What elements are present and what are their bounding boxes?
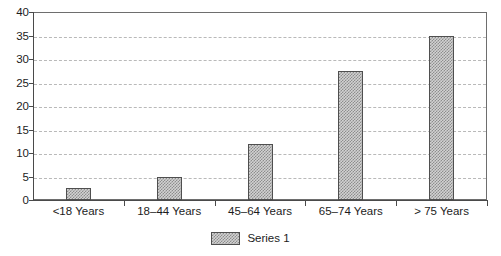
y-axis-tick-label: 10 bbox=[0, 147, 29, 159]
bar-chart: 0510152025303540 <18 Years18–44 Years45–… bbox=[0, 0, 501, 256]
bar bbox=[338, 71, 363, 200]
y-axis-tick-label: 15 bbox=[0, 124, 29, 136]
legend-swatch-icon bbox=[211, 232, 240, 245]
y-axis-tick-label: 20 bbox=[0, 100, 29, 112]
chart-legend: Series 1 bbox=[0, 232, 501, 245]
bar bbox=[66, 188, 91, 200]
bar bbox=[248, 144, 273, 200]
x-axis-tick-label: 45–64 Years bbox=[215, 205, 306, 218]
x-axis-tick bbox=[487, 200, 488, 206]
legend-label: Series 1 bbox=[247, 232, 289, 245]
y-axis-tick-label: 40 bbox=[0, 6, 29, 18]
y-axis-tick-label: 5 bbox=[0, 171, 29, 183]
y-axis-tick-label: 0 bbox=[0, 194, 29, 206]
x-axis-tick-label: > 75 Years bbox=[396, 205, 487, 218]
y-axis-tick-labels: 0510152025303540 bbox=[0, 12, 29, 200]
bar bbox=[429, 36, 454, 201]
x-axis-tick-label: 18–44 Years bbox=[124, 205, 215, 218]
x-axis-tick-label: 65–74 Years bbox=[305, 205, 396, 218]
y-axis-tick-label: 30 bbox=[0, 53, 29, 65]
x-axis bbox=[33, 200, 487, 201]
x-axis-tick-label: <18 Years bbox=[33, 205, 124, 218]
y-axis-tick-label: 35 bbox=[0, 30, 29, 42]
y-axis-tick-label: 25 bbox=[0, 77, 29, 89]
bar bbox=[157, 177, 182, 201]
bars-layer bbox=[33, 12, 487, 200]
